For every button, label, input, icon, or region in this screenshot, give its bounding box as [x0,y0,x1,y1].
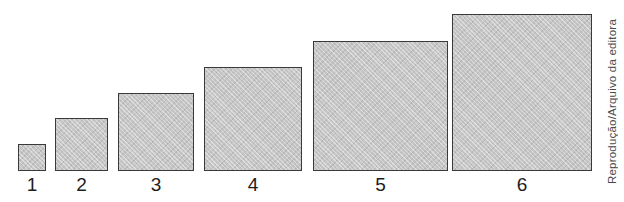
bar-1 [18,144,46,171]
bar-5 [313,41,448,171]
bar-label-2: 2 [55,174,108,196]
bar-chart-figure: 1 2 3 4 5 6 Reprodução/Arquivo da editor… [0,0,624,202]
bar-label-3: 3 [118,174,194,196]
bar-label-5: 5 [313,174,448,196]
bar-3 [118,93,194,171]
image-credit: Reprodução/Arquivo da editora [601,0,623,202]
bar-2 [55,118,108,171]
plot-area: 1 2 3 4 5 6 [0,0,600,202]
image-credit-text: Reprodução/Arquivo da editora [606,19,618,184]
bar-6 [452,14,592,171]
bar-label-4: 4 [204,174,302,196]
bar-label-1: 1 [18,174,46,196]
bar-label-6: 6 [452,174,592,196]
bar-4 [204,67,302,171]
